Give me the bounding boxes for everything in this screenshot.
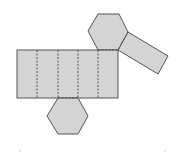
- speck-right: [164, 150, 165, 151]
- hexagonal-prism-net: [0, 0, 177, 161]
- lateral-face-tilted: [118, 32, 168, 74]
- speck-left: [19, 150, 20, 151]
- lateral-face-strip: [17, 50, 118, 98]
- hexagon-face-bottom: [47, 98, 88, 134]
